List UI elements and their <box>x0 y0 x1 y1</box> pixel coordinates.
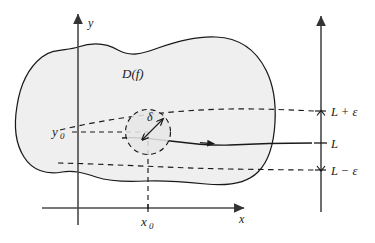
y-axis-label: y <box>87 16 94 30</box>
limit-diagram-figure: D(f) δ y x x 0 y 0 L + ε L L − ε <box>0 0 375 243</box>
x0-label-subscript: 0 <box>149 221 154 231</box>
y0-label-base: y <box>50 124 58 139</box>
y0-label-subscript: 0 <box>60 131 65 141</box>
x-axis-label: x <box>238 212 245 226</box>
delta-label: δ <box>147 110 153 124</box>
limit-lower-label: L − ε <box>330 164 357 178</box>
limit-center-label: L <box>330 137 338 151</box>
diagram-canvas: D(f) δ y x x 0 y 0 L + ε L L − ε <box>0 0 375 243</box>
domain-label: D(f) <box>121 66 144 81</box>
x0-label-base: x <box>140 214 147 229</box>
limit-upper-label: L + ε <box>330 105 357 119</box>
